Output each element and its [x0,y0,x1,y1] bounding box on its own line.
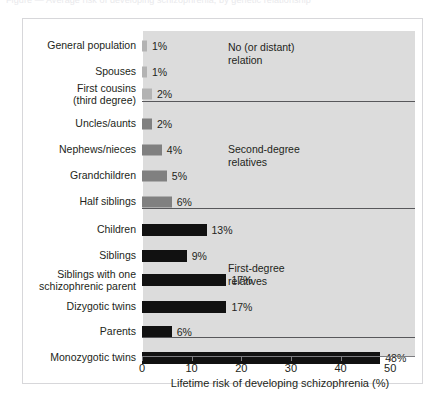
bar-row-label: Children [23,224,136,236]
x-axis-tick-label: 20 [235,362,247,374]
bar-row-label: Grandchildren [23,170,136,182]
group-separator-3 [142,337,415,338]
bar-row-label: Siblings with oneschizophrenic parent [23,269,136,292]
x-axis-tick [341,356,342,361]
group-note-second-degree: Second-degree relatives [228,143,300,168]
group-separator-2 [142,208,415,209]
bar-row: Parents6% [23,319,422,345]
x-axis-tick-label: 0 [139,362,145,374]
bar-value-label: 17% [231,301,252,313]
bar-row-label-line1: Grandchildren [70,169,136,181]
bar [142,250,187,262]
bar-value-label: 1% [152,40,167,52]
bar-row-label: Monozygotic twins [23,352,136,364]
bar-row-label: Dizygotic twins [23,301,136,313]
bar-value-label: 2% [157,88,172,100]
x-axis-tick [192,356,193,361]
x-axis-line [142,356,415,357]
x-axis-tick [291,356,292,361]
bar-row-label-line1: General population [47,39,136,51]
bar-row: Siblings9% [23,243,422,269]
bar-row-label-line1: Parents [100,325,136,337]
x-axis-tick [390,356,391,361]
bar [142,224,207,236]
bar-row: Grandchildren5% [23,163,422,189]
bar-row-label-line1: Spouses [95,65,136,77]
group-separator-1 [142,101,415,102]
bar-value-label: 1% [152,66,167,78]
x-axis-tick-label: 50 [384,362,396,374]
group-note-line2: relation [228,54,295,67]
bar-row-label: Parents [23,326,136,338]
bar-row: Children13% [23,217,422,243]
x-axis-tick-label: 40 [334,362,346,374]
bar-row: Siblings with oneschizophrenic parent17% [23,267,422,293]
bar [142,274,226,286]
bar-row: Dizygotic twins17% [23,294,422,320]
bar [142,67,147,78]
group-note-no-relation: No (or distant) relation [228,41,295,66]
bar-row-label-line1: Siblings with one [57,268,136,280]
bar-row-label: Siblings [23,250,136,262]
group-note-first-degree: First-degree relatives [228,262,285,287]
bar-value-label: 2% [157,118,172,130]
bar-value-label: 6% [177,196,192,208]
clipped-caption-text: Figure — Average risk of developing schi… [6,0,445,5]
bar-value-label: 4% [167,144,182,156]
x-axis-title-text: Lifetime risk of developing schizophreni… [171,377,389,389]
group-note-line1: Second-degree [228,143,300,156]
x-axis-title: Lifetime risk of developing schizophreni… [23,377,422,389]
x-axis-tick [142,356,143,361]
chart-figure: General population1%Spouses1%First cousi… [22,18,423,384]
bar-value-label: 9% [192,250,207,262]
bar [142,171,167,182]
bar-row-label: First cousins(third degree) [23,83,136,106]
bar-row: Half siblings6% [23,189,422,215]
bar-row-label-line1: Children [97,223,136,235]
bar [142,41,147,52]
group-note-line1: First-degree [228,262,285,275]
group-note-line2: relatives [228,275,285,288]
bar-row-label: Spouses [23,66,136,78]
bar-row-label: Half siblings [23,196,136,208]
bar [142,197,172,208]
bar [142,301,226,313]
bar-row-label: General population [23,40,136,52]
bar-row-label-line1: Monozygotic twins [50,351,136,363]
bar-row: Monozygotic twins48% [23,345,422,371]
bar-row-label-line1: Siblings [99,249,136,261]
bar-row-label-line1: Half siblings [79,195,136,207]
bar-row: Uncles/aunts2% [23,111,422,137]
bar-row-label-line2: schizophrenic parent [23,280,136,292]
x-axis-tick [241,356,242,361]
bar-row-label-line1: First cousins [77,82,136,94]
bar-row-label-line1: Dizygotic twins [67,300,136,312]
bar [142,89,152,100]
bar [142,145,162,156]
clipped-caption-strip: Figure — Average risk of developing schi… [0,0,445,11]
bar-row: First cousins(third degree)2% [23,81,422,107]
bar-row: Nephews/nieces4% [23,137,422,163]
x-axis-tick-label: 10 [186,362,198,374]
bar-row-label: Nephews/nieces [23,144,136,156]
bar-row-label-line2: (third degree) [23,94,136,106]
group-note-line2: relatives [228,156,300,169]
bar-row-label-line1: Nephews/nieces [59,143,136,155]
bar-value-label: 13% [212,224,233,236]
bar [142,119,152,130]
bar-row-label: Uncles/aunts [23,118,136,130]
bar-value-label: 5% [172,170,187,182]
group-note-line1: No (or distant) [228,41,295,54]
bar-row-label-line1: Uncles/aunts [75,117,136,129]
x-axis-tick-label: 30 [285,362,297,374]
bar-row: General population1% [23,33,422,59]
